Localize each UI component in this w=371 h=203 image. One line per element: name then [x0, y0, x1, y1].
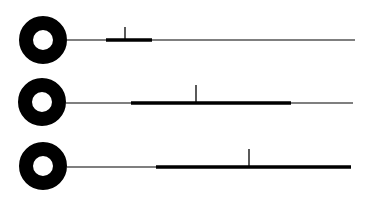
diagram-row-1: [26, 23, 355, 57]
diagram-canvas: [0, 0, 371, 203]
diagram-row-2: [25, 85, 353, 119]
ring-icon: [26, 23, 60, 57]
ring-icon: [26, 149, 60, 183]
diagram-rows: [25, 23, 355, 183]
diagram-row-3: [26, 149, 351, 183]
ring-icon: [25, 85, 59, 119]
